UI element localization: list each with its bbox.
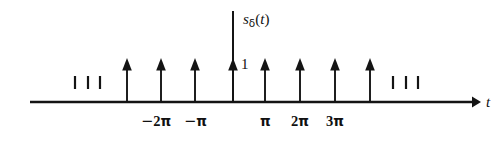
- tick-pi-glyph: π: [160, 113, 171, 129]
- impulse-3pi: [330, 58, 340, 102]
- impulse-left-3: [122, 58, 132, 102]
- impulse-train-figure: sδ(t) 1 t −2π −π π 2π 3π: [0, 0, 504, 150]
- x-axis-group: [30, 97, 481, 108]
- x-axis-label: t: [486, 95, 490, 110]
- tick-label-3pi: 3π: [326, 114, 344, 129]
- tick-label-pi: π: [260, 114, 271, 129]
- impulse-right-4: [365, 58, 375, 102]
- tick-minus-sign: −: [184, 113, 196, 129]
- impulse-minus-2pi: [156, 58, 166, 102]
- x-axis-arrowhead: [472, 97, 481, 108]
- impulse-2pi: [295, 58, 305, 102]
- tick-pi-glyph: π: [196, 113, 207, 129]
- tick-label-2pi: 2π: [291, 114, 309, 129]
- y-axis-label-argument: (t): [255, 11, 269, 27]
- ellipsis-right: [393, 76, 418, 89]
- tick-pi-glyph: π: [298, 113, 309, 129]
- impulse-origin: [228, 58, 238, 102]
- tick-pi-glyph: π: [260, 113, 271, 129]
- ellipsis-left: [75, 76, 100, 89]
- impulse-pi: [260, 58, 270, 102]
- tick-pi-glyph: π: [333, 113, 344, 129]
- tick-label-minus-2pi: −2π: [141, 114, 171, 129]
- y-axis-label: sδ(t): [243, 12, 269, 29]
- tick-label-minus-pi: −π: [184, 114, 207, 129]
- amplitude-label: 1: [241, 57, 249, 72]
- impulse-train-group: [122, 58, 375, 102]
- impulse-minus-pi: [190, 58, 200, 102]
- paren-close: ): [264, 11, 269, 27]
- tick-minus-sign: −: [141, 113, 153, 129]
